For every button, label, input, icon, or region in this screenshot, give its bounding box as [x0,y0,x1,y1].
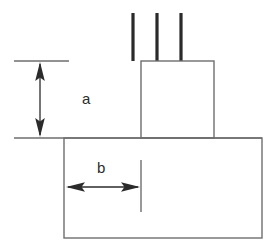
dimension-b-arrow [66,182,140,192]
column-rectangle [141,61,214,138]
dowel-bars-group [133,13,181,61]
dimension-b-label: b [97,160,105,175]
dimension-a-label: a [82,91,90,106]
dimension-a-arrow [35,62,45,137]
footing-rectangle [64,138,262,238]
footing-diagram: a b [0,0,278,249]
diagram-canvas [0,0,278,249]
